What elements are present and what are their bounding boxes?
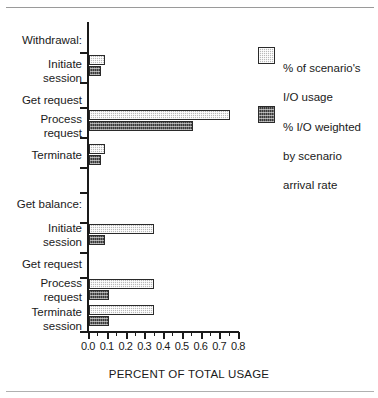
x-tick-major: [182, 332, 184, 339]
x-tick-label: 0.5: [175, 340, 189, 352]
x-tick-label: 0.3: [137, 340, 151, 352]
x-tick-major: [88, 332, 90, 339]
bar-scenario-io: [89, 279, 154, 289]
category-label-process-line1: Process: [40, 112, 82, 126]
x-tick-minor: [135, 332, 136, 336]
bar-weighted-io: [89, 235, 105, 245]
bar-weighted-io: [89, 121, 193, 131]
legend-swatch-light-icon: [258, 47, 275, 64]
bar-scenario-io: [89, 110, 230, 120]
y-tick: [80, 167, 88, 169]
bar-scenario-io: [89, 55, 105, 65]
category-label-terminate-1: Terminate: [32, 148, 83, 162]
x-tick-major: [144, 332, 146, 339]
x-tick-minor: [172, 332, 173, 336]
x-tick-major: [107, 332, 109, 339]
subheading-get-request-1: Get request: [22, 93, 82, 107]
x-tick-label: 0.4: [156, 340, 170, 352]
x-tick-major: [163, 332, 165, 339]
y-tick: [80, 107, 88, 109]
legend-item-weighted-io[interactable]: % I/O weighted by scenario arrival rate: [258, 105, 361, 192]
category-label-initiate-line2: session: [43, 71, 82, 85]
x-tick-label: 0.8: [231, 340, 245, 352]
horizontal-bar-chart: 0.00.10.20.30.40.50.60.70.8 Withdrawal: …: [0, 0, 378, 398]
category-label-terminate2-line1: Terminate: [32, 305, 83, 319]
x-tick-minor: [229, 332, 230, 336]
bar-weighted-io: [89, 290, 109, 300]
bar-weighted-io: [89, 155, 101, 165]
category-label-initiate2-line1: Initiate: [48, 221, 82, 235]
category-label-initiate2-line2: session: [43, 235, 82, 249]
x-tick-label: 0.0: [81, 340, 95, 352]
legend-label2-line2: by scenario: [283, 150, 342, 162]
legend-label-line1: % of scenario's: [283, 62, 361, 74]
x-tick-label: 0.7: [212, 340, 226, 352]
category-label-terminate2-line2: session: [43, 319, 82, 333]
y-tick: [80, 192, 88, 194]
x-tick-minor: [116, 332, 117, 336]
category-label-initiate-line1: Initiate: [48, 57, 82, 71]
bar-scenario-io: [89, 224, 154, 234]
y-tick: [80, 52, 88, 54]
x-tick-label: 0.2: [118, 340, 132, 352]
legend-item-scenario-io[interactable]: % of scenario's I/O usage: [258, 46, 361, 104]
x-tick-minor: [210, 332, 211, 336]
bar-scenario-io: [89, 305, 154, 315]
x-tick-major: [238, 332, 240, 339]
bar-weighted-io: [89, 66, 101, 76]
legend-label2-line1: % I/O weighted: [283, 121, 361, 133]
x-tick-major: [126, 332, 128, 339]
x-tick-minor: [97, 332, 98, 336]
x-tick-minor: [154, 332, 155, 336]
y-tick: [80, 252, 88, 254]
bar-weighted-io: [89, 316, 109, 326]
legend-label-line2: I/O usage: [283, 91, 333, 103]
x-tick-label: 0.1: [100, 340, 114, 352]
x-axis-title: PERCENT OF TOTAL USAGE: [0, 368, 378, 380]
category-label-process-line2: request: [44, 126, 82, 140]
bar-scenario-io: [89, 144, 105, 154]
group-header-get-balance: Get balance:: [17, 197, 82, 211]
category-label-process2-line2: request: [44, 290, 82, 304]
group-header-withdrawal: Withdrawal:: [22, 33, 82, 47]
x-tick-label: 0.6: [193, 340, 207, 352]
x-tick-major: [201, 332, 203, 339]
legend-swatch-dark-icon: [258, 106, 275, 123]
x-tick-major: [219, 332, 221, 339]
subheading-get-request-2: Get request: [22, 257, 82, 271]
legend-label2-line3: arrival rate: [283, 179, 337, 191]
x-tick-minor: [191, 332, 192, 336]
category-label-process2-line1: Process: [40, 276, 82, 290]
